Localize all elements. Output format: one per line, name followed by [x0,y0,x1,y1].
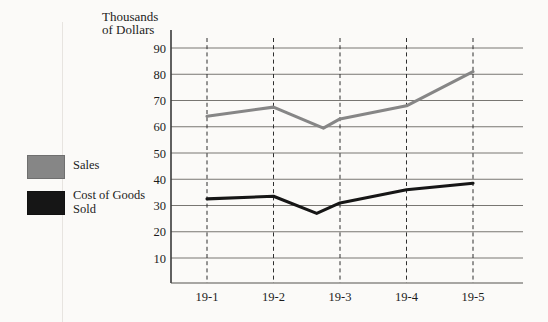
y-tick-label: 60 [154,120,167,134]
y-tick-label: 10 [154,252,167,266]
y-tick-label: 50 [154,147,167,161]
cogs-legend-label: Cost of Goods Sold [73,189,157,216]
cogs-legend-swatch [27,191,65,215]
sales-legend-label: Sales [73,159,99,173]
x-tick-label: 19-4 [395,290,419,304]
y-tick-label: 90 [154,42,167,56]
x-tick-label: 19-2 [262,290,285,304]
y-tick-label: 70 [154,94,167,108]
sales-line [207,72,473,129]
chart-figure: Thousands of Dollars 9080706050403020101… [0,0,548,322]
y-tick-label: 80 [154,68,167,82]
y-tick-label: 40 [154,173,167,187]
x-tick-label: 19-5 [462,290,485,304]
y-tick-label: 20 [154,225,167,239]
sales-legend-swatch [27,155,65,179]
x-tick-label: 19-1 [196,290,219,304]
x-tick-label: 19-3 [329,290,352,304]
